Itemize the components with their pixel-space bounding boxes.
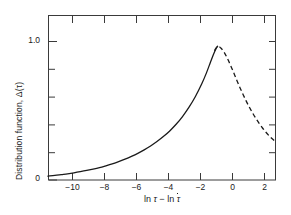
x-axis-ticks-bottom xyxy=(73,173,265,180)
y-axis-ticks-right xyxy=(269,42,275,153)
x-tick-label--2: −2 xyxy=(188,182,214,192)
chart-figure: 1.0 0 −10 −8 −6 −4 −2 0 2 Distribution f… xyxy=(0,0,291,215)
curve-dashed-segment xyxy=(214,46,275,142)
x-axis-label: ln τ − ln τ xyxy=(48,194,276,204)
y-tick-label-1.0: 1.0 xyxy=(16,35,40,45)
x-tick-label--10: −10 xyxy=(60,182,86,192)
curve-solid-segment xyxy=(48,46,218,176)
x-axis-label-tau-bar: τ xyxy=(177,194,180,204)
x-tick-label-0: 0 xyxy=(220,182,246,192)
x-axis-ticks-top xyxy=(73,16,265,23)
y-axis-label: Distribution function, Δ(τ) xyxy=(14,82,24,180)
axis-frame xyxy=(49,16,276,181)
x-tick-label-2: 2 xyxy=(252,182,278,192)
x-tick-label--4: −4 xyxy=(156,182,182,192)
x-tick-label--8: −8 xyxy=(92,182,118,192)
x-tick-label--6: −6 xyxy=(124,182,150,192)
y-axis-ticks-left xyxy=(49,42,57,181)
x-axis-label-ln1: ln xyxy=(144,194,151,204)
